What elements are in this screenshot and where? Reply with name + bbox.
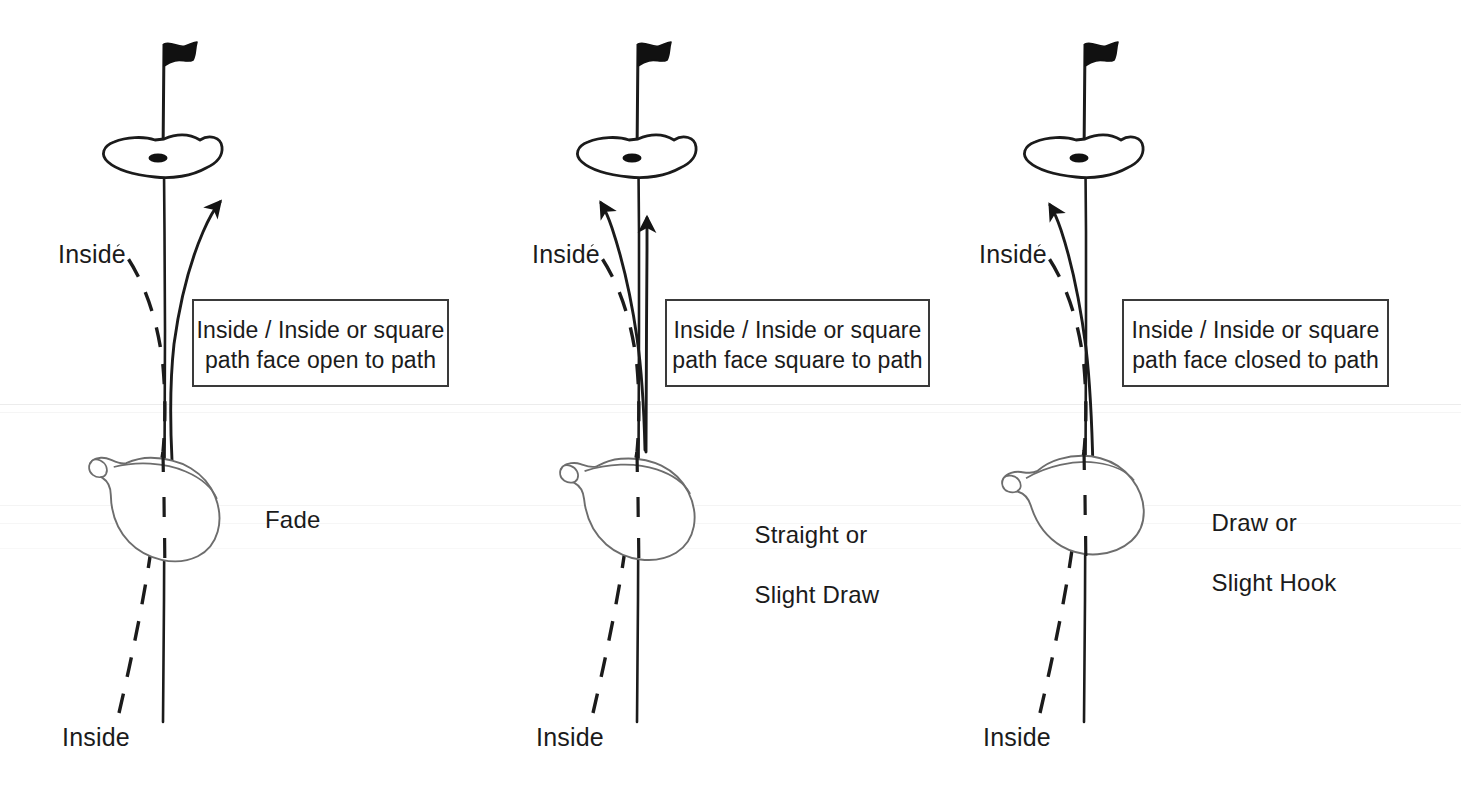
callout-line-2: path face open to path: [194, 345, 447, 375]
golf-hole-icon: [623, 153, 642, 162]
clubhead-alignment-dash: [1084, 450, 1086, 556]
callout-line-1: Inside / Inside or square: [197, 317, 445, 343]
inside-label-top-panel-1: Inside: [58, 240, 126, 269]
result-line-1: Straight or: [754, 521, 867, 548]
inside-label-bottom-panel-1: Inside: [62, 723, 130, 752]
callout-box-panel-1: Inside / Inside or square path face open…: [192, 299, 449, 387]
inside-label-bottom-panel-3: Inside: [983, 723, 1051, 752]
callout-line-2: path face closed to path: [1124, 345, 1387, 375]
driver-clubhead-icon: [1000, 446, 1151, 569]
result-label-panel-2: Straight or Slight Draw: [727, 490, 879, 640]
result-label-panel-3: Draw or Slight Hook: [1184, 478, 1336, 628]
driver-clubhead-icon: [559, 457, 696, 561]
golf-hole-icon: [149, 153, 168, 162]
callout-box-panel-2: Inside / Inside or square path face squa…: [665, 299, 930, 387]
golf-flag-icon: [638, 42, 671, 66]
callout-line-2: path face square to path: [667, 345, 928, 375]
inside-label-top-panel-3: Inside: [979, 240, 1047, 269]
result-line-2: Slight Hook: [1211, 569, 1336, 596]
clubhead-alignment-dash: [163, 452, 165, 558]
inside-label-bottom-panel-2: Inside: [536, 723, 604, 752]
diagram-canvas: Inside Inside / Inside or square path fa…: [0, 0, 1461, 793]
callout-box-panel-3: Inside / Inside or square path face clos…: [1122, 299, 1389, 387]
driver-clubhead-icon: [80, 451, 225, 566]
result-label-panel-1: Fade: [265, 505, 321, 535]
clubhead-alignment-dash: [637, 452, 639, 558]
inside-label-top-panel-2: Inside: [532, 240, 600, 269]
golf-flag-icon: [1085, 42, 1118, 66]
ball-flight-arrow-icon: [646, 218, 647, 452]
diagram-vector-layer: [0, 0, 1461, 793]
callout-line-1: Inside / Inside or square: [674, 317, 922, 343]
golf-hole-icon: [1070, 153, 1089, 162]
result-line-1: Draw or: [1211, 509, 1296, 536]
golf-flag-icon: [164, 42, 197, 66]
result-line-2: Slight Draw: [754, 581, 879, 608]
callout-line-1: Inside / Inside or square: [1132, 317, 1380, 343]
